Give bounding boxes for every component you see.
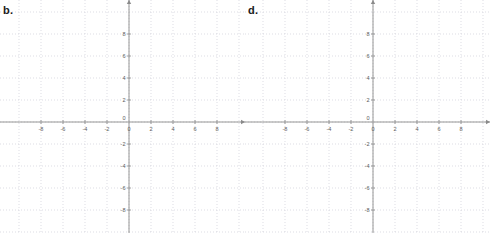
y-tick-label: 6 — [366, 53, 369, 59]
y-tick-label: -2 — [121, 141, 126, 147]
x-tick-label: 6 — [193, 126, 196, 132]
graph-panel-b: b. -8-6-4-202468-8-6-4-224680 — [0, 0, 245, 233]
graph-panel-d: d. -8-6-4-202468-8-6-4-224680 — [245, 0, 490, 233]
y-tick-label: -6 — [121, 185, 126, 191]
x-tick-label: -4 — [327, 126, 332, 132]
y-tick-label: -8 — [121, 207, 126, 213]
panel-label-b: b. — [3, 4, 13, 16]
y-tick-label: 2 — [122, 97, 125, 103]
origin-label: 0 — [366, 115, 369, 121]
y-tick-label: 2 — [366, 97, 369, 103]
x-tick-label: 2 — [393, 126, 396, 132]
x-tick-label: -4 — [83, 126, 88, 132]
y-tick-label: -2 — [365, 141, 370, 147]
y-tick-label: 8 — [122, 31, 125, 37]
y-tick-label: 8 — [366, 31, 369, 37]
coordinate-plane-d: -8-6-4-202468-8-6-4-224680 — [245, 0, 490, 233]
y-tick-label: -4 — [121, 163, 126, 169]
x-tick-label: 8 — [215, 126, 218, 132]
y-tick-label: 4 — [122, 75, 125, 81]
x-tick-label: -6 — [61, 126, 66, 132]
y-tick-label: -8 — [365, 207, 370, 213]
y-tick-label: -4 — [365, 163, 370, 169]
x-tick-label: 0 — [371, 126, 374, 132]
x-tick-label: -6 — [305, 126, 310, 132]
x-tick-label: -2 — [105, 126, 110, 132]
worksheet-graphs: b. -8-6-4-202468-8-6-4-224680 d. -8-6-4-… — [0, 0, 490, 233]
x-tick-label: -8 — [39, 126, 44, 132]
x-tick-label: 4 — [171, 126, 174, 132]
panel-label-d: d. — [248, 4, 258, 16]
coordinate-plane-b: -8-6-4-202468-8-6-4-224680 — [0, 0, 245, 233]
plot-area-d: -8-6-4-202468-8-6-4-224680 — [245, 0, 490, 233]
origin-label: 0 — [122, 115, 125, 121]
x-tick-label: -2 — [349, 126, 354, 132]
x-tick-label: -8 — [283, 126, 288, 132]
x-tick-label: 0 — [127, 126, 130, 132]
y-tick-label: 6 — [122, 53, 125, 59]
x-tick-label: 2 — [149, 126, 152, 132]
y-tick-label: 4 — [366, 75, 369, 81]
plot-area-b: -8-6-4-202468-8-6-4-224680 — [0, 0, 245, 233]
x-tick-label: 8 — [459, 126, 462, 132]
x-tick-label: 6 — [437, 126, 440, 132]
x-tick-label: 4 — [415, 126, 418, 132]
y-tick-label: -6 — [365, 185, 370, 191]
